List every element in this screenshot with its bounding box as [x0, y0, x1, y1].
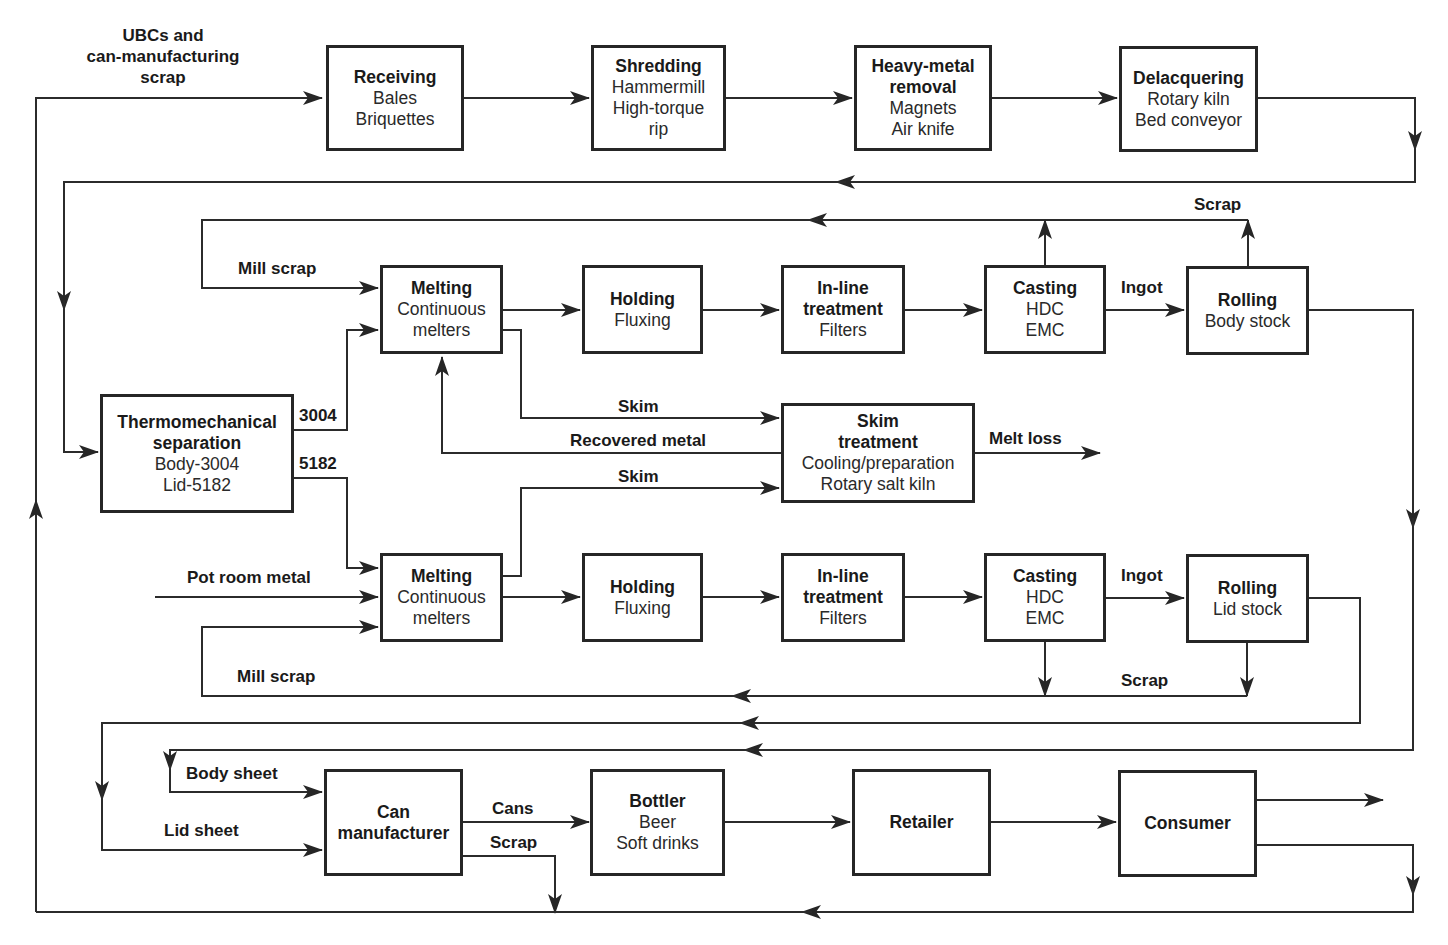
- label-alloy-5182: 5182: [299, 453, 337, 474]
- box-detail: Air knife: [891, 119, 954, 140]
- box-title: treatment: [803, 587, 883, 608]
- label-recovered-metal: Recovered metal: [570, 430, 706, 451]
- box-title: Heavy-metal: [871, 56, 974, 77]
- box-detail: melters: [413, 320, 470, 341]
- box-detail: High-torque: [613, 98, 704, 119]
- label-line: UBCs and: [75, 25, 251, 46]
- box-inline-treatment-body: In-line treatment Filters: [781, 265, 905, 354]
- label-ubcs-input: UBCs and can-manufacturing scrap: [75, 25, 251, 88]
- box-detail: Bales: [373, 88, 417, 109]
- box-detail: EMC: [1026, 608, 1065, 629]
- box-title: Rolling: [1218, 290, 1277, 311]
- box-detail: Body-3004: [155, 454, 240, 475]
- box-title: In-line: [817, 278, 869, 299]
- box-detail: HDC: [1026, 299, 1064, 320]
- box-thermomechanical-separation: Thermomechanical separation Body-3004 Li…: [100, 394, 294, 513]
- box-can-manufacturer: Can manufacturer: [324, 769, 463, 876]
- box-title: Melting: [411, 566, 472, 587]
- label-mill-scrap-bottom: Mill scrap: [237, 666, 315, 687]
- box-detail: Soft drinks: [616, 833, 699, 854]
- box-title: manufacturer: [338, 823, 450, 844]
- box-title: In-line: [817, 566, 869, 587]
- box-title: Can: [377, 802, 410, 823]
- box-title: Holding: [610, 289, 675, 310]
- box-detail: rip: [649, 119, 668, 140]
- box-rolling-lid: Rolling Lid stock: [1186, 554, 1309, 643]
- box-detail: Continuous: [397, 299, 486, 320]
- label-skim-bottom: Skim: [618, 466, 659, 487]
- box-detail: Lid-5182: [163, 475, 231, 496]
- box-title: Delacquering: [1133, 68, 1244, 89]
- box-detail: Rotary kiln: [1147, 89, 1230, 110]
- box-skim-treatment: Skim treatment Cooling/preparation Rotar…: [781, 403, 975, 503]
- box-casting-lid: Casting HDC EMC: [984, 553, 1106, 642]
- box-detail: Hammermill: [612, 77, 705, 98]
- label-scrap-bottom: Scrap: [1121, 670, 1168, 691]
- label-alloy-3004: 3004: [299, 405, 337, 426]
- box-consumer: Consumer: [1118, 770, 1257, 877]
- box-title: Rolling: [1218, 578, 1277, 599]
- box-title: Holding: [610, 577, 675, 598]
- box-title: Bottler: [629, 791, 685, 812]
- label-melt-loss: Melt loss: [989, 428, 1062, 449]
- label-line: can-manufacturing: [75, 46, 251, 67]
- box-detail: HDC: [1026, 587, 1064, 608]
- box-holding-lid: Holding Fluxing: [582, 553, 703, 642]
- box-title: Casting: [1013, 278, 1077, 299]
- box-delacquering: Delacquering Rotary kiln Bed conveyor: [1119, 46, 1258, 152]
- box-receiving: Receiving Bales Briquettes: [326, 45, 464, 151]
- box-shredding: Shredding Hammermill High-torque rip: [591, 45, 726, 151]
- box-detail: EMC: [1026, 320, 1065, 341]
- box-melting-lid: Melting Continuous melters: [380, 553, 503, 642]
- box-title: Receiving: [354, 67, 437, 88]
- box-title: removal: [889, 77, 956, 98]
- label-scrap-can: Scrap: [490, 832, 537, 853]
- box-detail: Filters: [819, 608, 867, 629]
- box-detail: Filters: [819, 320, 867, 341]
- box-detail: Fluxing: [614, 310, 670, 331]
- box-inline-treatment-lid: In-line treatment Filters: [781, 553, 905, 642]
- box-heavy-metal-removal: Heavy-metal removal Magnets Air knife: [854, 45, 992, 151]
- box-detail: Cooling/preparation: [802, 453, 955, 474]
- box-title: Melting: [411, 278, 472, 299]
- box-title: Thermomechanical: [117, 412, 277, 433]
- box-retailer: Retailer: [852, 769, 991, 876]
- box-detail: Bed conveyor: [1135, 110, 1242, 131]
- box-detail: Briquettes: [356, 109, 435, 130]
- label-line: scrap: [75, 67, 251, 88]
- box-title: Skim: [857, 411, 899, 432]
- box-title: Consumer: [1144, 813, 1231, 834]
- box-detail: Beer: [639, 812, 676, 833]
- label-mill-scrap-top: Mill scrap: [238, 258, 316, 279]
- box-melting-body: Melting Continuous melters: [380, 265, 503, 354]
- box-detail: Rotary salt kiln: [821, 474, 936, 495]
- box-bottler: Bottler Beer Soft drinks: [590, 769, 725, 876]
- box-holding-body: Holding Fluxing: [582, 265, 703, 354]
- label-skim-top: Skim: [618, 396, 659, 417]
- box-detail: Magnets: [889, 98, 956, 119]
- box-title: Shredding: [615, 56, 702, 77]
- label-scrap-top: Scrap: [1194, 194, 1241, 215]
- box-title: treatment: [803, 299, 883, 320]
- label-pot-room-metal: Pot room metal: [187, 567, 311, 588]
- box-detail: Continuous: [397, 587, 486, 608]
- box-detail: Body stock: [1205, 311, 1291, 332]
- label-cans: Cans: [492, 798, 534, 819]
- box-title: treatment: [838, 432, 918, 453]
- box-rolling-body: Rolling Body stock: [1186, 266, 1309, 355]
- box-title: Retailer: [889, 812, 953, 833]
- box-detail: melters: [413, 608, 470, 629]
- box-title: separation: [153, 433, 242, 454]
- label-ingot-bottom: Ingot: [1121, 565, 1163, 586]
- box-detail: Lid stock: [1213, 599, 1282, 620]
- box-detail: Fluxing: [614, 598, 670, 619]
- box-casting-body: Casting HDC EMC: [984, 265, 1106, 354]
- label-body-sheet: Body sheet: [186, 763, 278, 784]
- label-ingot-top: Ingot: [1121, 277, 1163, 298]
- label-lid-sheet: Lid sheet: [164, 820, 239, 841]
- box-title: Casting: [1013, 566, 1077, 587]
